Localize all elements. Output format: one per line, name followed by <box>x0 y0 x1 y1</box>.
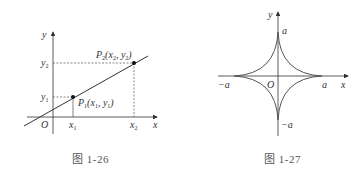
x-axis-label: x <box>152 119 158 130</box>
y-axis-label: y <box>267 9 273 20</box>
figure-1-27: y x O a −a −a a <box>182 0 364 150</box>
x2-label: x2 <box>129 119 137 131</box>
y2-label: y2 <box>40 57 48 69</box>
figure-1-26: y x O y1 y2 x1 x2 P1(x1, y1) P2(x2, y2) <box>0 0 182 150</box>
origin-label: O <box>41 119 48 130</box>
x-axis-label: x <box>340 79 346 90</box>
right-cusp-label: a <box>322 79 327 90</box>
left-cusp-label: −a <box>218 79 230 90</box>
figure-1-27-caption: 图 1-27 <box>264 150 301 166</box>
p1-label: P1(x1, y1) <box>77 97 114 109</box>
y1-label: y1 <box>40 91 48 103</box>
origin-label: O <box>267 79 274 90</box>
line-through-two-points-diagram: y x O y1 y2 x1 x2 P1(x1, y1) P2(x2, y2) <box>0 0 182 150</box>
bottom-cusp-label: −a <box>281 119 293 130</box>
p2-label: P2(x2, y2) <box>95 49 132 61</box>
astroid-diagram: y x O a −a −a a <box>182 0 364 150</box>
x1-label: x1 <box>68 119 76 131</box>
top-cusp-label: a <box>282 25 287 36</box>
point-p2 <box>132 61 136 65</box>
y-axis-label: y <box>41 29 47 40</box>
figure-1-26-caption: 图 1-26 <box>72 150 109 166</box>
point-p1 <box>71 95 75 99</box>
